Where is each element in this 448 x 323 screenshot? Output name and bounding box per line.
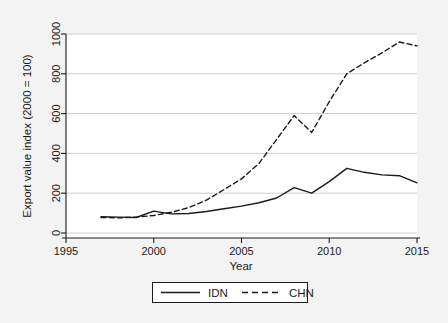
export-value-index-line-chart: 02004006008001000 19952000200520102015 E… bbox=[0, 0, 448, 323]
y-tick-label-0: 0 bbox=[50, 230, 62, 236]
chart-legend: IDN CHN bbox=[153, 283, 314, 303]
x-tick-label-2015: 2015 bbox=[405, 245, 429, 257]
y-tick-label-400: 400 bbox=[50, 144, 62, 162]
legend-label-idn: IDN bbox=[208, 287, 228, 299]
chart-figure: 02004006008001000 19952000200520102015 E… bbox=[0, 0, 448, 323]
x-tick-label-2010: 2010 bbox=[317, 245, 341, 257]
x-axis-title: Year bbox=[229, 260, 252, 272]
y-tick-label-200: 200 bbox=[50, 184, 62, 202]
plot-area-background bbox=[66, 34, 417, 238]
y-tick-label-800: 800 bbox=[50, 65, 62, 83]
x-tick-label-2000: 2000 bbox=[142, 245, 166, 257]
y-axis-title: Export value index (2000 = 100) bbox=[21, 54, 33, 218]
x-tick-label-2005: 2005 bbox=[229, 245, 253, 257]
y-tick-label-600: 600 bbox=[50, 104, 62, 122]
y-tick-label-1000: 1000 bbox=[50, 22, 62, 46]
x-tick-label-1995: 1995 bbox=[54, 245, 78, 257]
legend-label-chn: CHN bbox=[289, 287, 314, 299]
